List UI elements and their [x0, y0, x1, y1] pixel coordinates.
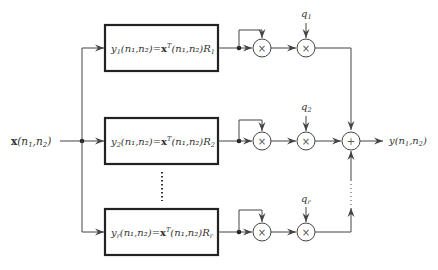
branch-1-to-sum: [315, 48, 351, 130]
filter-equation-1: y1(n₁,n₂)=xT(n₁,n₂)R1: [110, 42, 215, 56]
svg-text:+: +: [347, 136, 355, 147]
svg-text:×: ×: [258, 43, 266, 54]
branch-1: y1(n₁,n₂)=xT(n₁,n₂)R1: [105, 25, 218, 71]
branch-r: yr(n₁,n₂)=xT(n₁,n₂)Rr: [105, 209, 218, 255]
branch-r-processing: × × qr: [218, 151, 351, 241]
branch-2-processing: × × q2: [218, 101, 341, 150]
filter-equation-r: yr(n₁,n₂)=xT(n₁,n₂)Rr: [110, 226, 214, 240]
filter-equation-2: y2(n₁,n₂)=xT(n₁,n₂)R2: [110, 135, 215, 149]
q2-label: q2: [301, 101, 312, 114]
input-label: x(n1,n2): [11, 135, 51, 149]
block-diagram: x(n1,n2) y1(n₁,n₂)=xT(n₁,n₂)R1 y2(n₁,n₂)…: [0, 0, 438, 270]
q1-label: q1: [301, 8, 312, 21]
svg-text:×: ×: [258, 136, 266, 147]
output-label: y(n1,n2): [388, 135, 427, 148]
branch-1-processing: × × q1: [218, 8, 351, 130]
qr-label: qr: [301, 193, 311, 206]
branch-2: y2(n₁,n₂)=xT(n₁,n₂)R2: [105, 118, 218, 164]
svg-text:×: ×: [302, 227, 310, 238]
svg-text:×: ×: [302, 136, 310, 147]
svg-text:×: ×: [258, 227, 266, 238]
branch-r-to-sum: [315, 212, 351, 232]
svg-text:×: ×: [302, 43, 310, 54]
